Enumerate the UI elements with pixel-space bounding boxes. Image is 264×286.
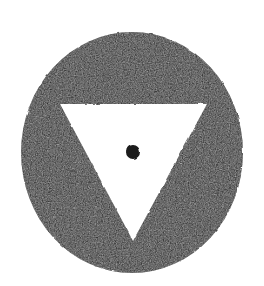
center-dot (126, 145, 140, 159)
figure-canvas: Solid dark disc containing a white downw… (0, 0, 264, 286)
symbol-figure: Solid dark disc containing a white downw… (0, 0, 264, 286)
outer-disc (0, 0, 264, 286)
